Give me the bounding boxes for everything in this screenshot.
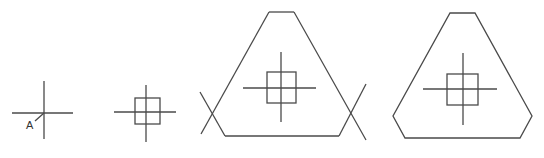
- left-slanted-edge: [201, 12, 269, 134]
- figure-step-2: [114, 85, 176, 142]
- point-label-a: A: [26, 119, 34, 131]
- center-square: [135, 98, 160, 124]
- figure-step-4: [393, 13, 532, 138]
- right-corner-cut-line: [339, 84, 366, 136]
- leader-line: [35, 113, 44, 121]
- right-slanted-edge: [294, 12, 366, 140]
- figure-step-3: [200, 12, 366, 140]
- construction-diagram: A: [0, 0, 544, 158]
- figure-step-1: A: [12, 81, 73, 139]
